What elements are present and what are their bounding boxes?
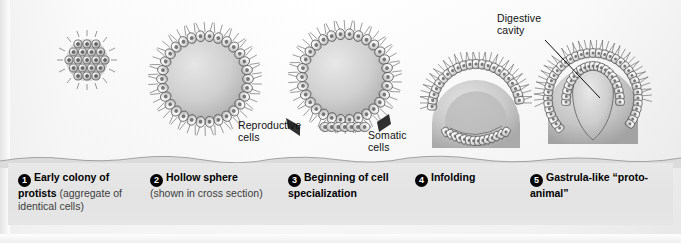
- caption-3-bold: Beginning of cell specialization: [288, 171, 389, 199]
- digestive-cavity-leader: [545, 40, 600, 98]
- caption-stage-3: 3Beginning of cell specialization: [288, 171, 412, 200]
- badge-5: 5: [530, 174, 543, 187]
- caption-2-bold: Hollow sphere: [166, 171, 238, 183]
- badge-2: 2: [150, 174, 163, 187]
- caption-stage-2: 2Hollow sphere (shown in cross section): [150, 171, 270, 200]
- caption-stage-1: 1Early colony of protists (aggregate of …: [18, 171, 140, 212]
- reproductive-cells-label: Reproductive cells: [238, 120, 301, 143]
- caption-stage-4: 4Infolding: [415, 171, 525, 187]
- caption-5-bold: Gastrula-like “proto-animal”: [530, 171, 648, 199]
- badge-4: 4: [415, 174, 428, 187]
- figure-illustration: Reproductive cells Somatic cells Digesti…: [0, 0, 681, 243]
- caption-2-rest: (shown in cross section): [150, 187, 263, 199]
- caption-stage-5: 5Gastrula-like “proto-animal”: [530, 171, 656, 200]
- caption-4-bold: Infolding: [431, 171, 475, 183]
- badge-3: 3: [288, 174, 301, 187]
- somatic-cells-label: Somatic cells: [368, 130, 407, 153]
- badge-1: 1: [18, 174, 31, 187]
- digestive-cavity-label: Digestive cavity: [497, 13, 541, 36]
